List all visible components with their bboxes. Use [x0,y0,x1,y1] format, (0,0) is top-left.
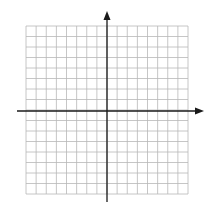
x-axis-arrow-icon [195,108,204,115]
coordinate-plane [0,0,216,216]
y-axis-arrow-icon [104,11,111,20]
